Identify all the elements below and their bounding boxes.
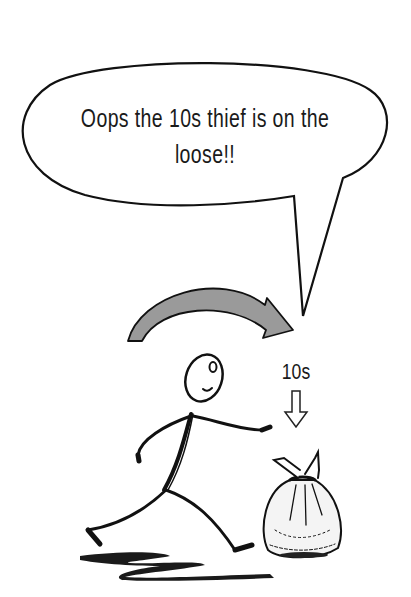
shadow-icon [80, 552, 274, 581]
down-arrow-icon [285, 391, 307, 427]
stick-figure-icon [88, 350, 270, 550]
speech-line-1: Oops the 10s thief is on the [69, 100, 342, 136]
ten-seconds-label: 10s [272, 359, 320, 385]
curved-arrow-icon [128, 289, 293, 341]
speech-bubble-text: Oops the 10s thief is on the loose!! [69, 100, 342, 172]
speech-line-2: loose!! [69, 136, 342, 172]
money-bag-icon [264, 452, 341, 558]
illustration-canvas [0, 0, 411, 597]
